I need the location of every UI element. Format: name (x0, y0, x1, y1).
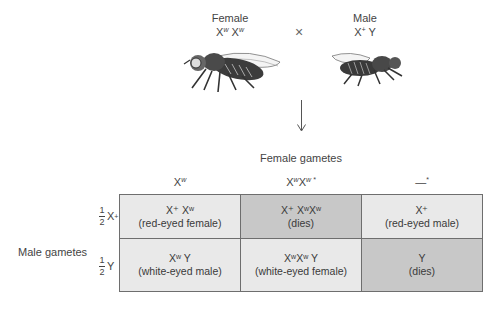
cell-white-eyed-male: Xʷ Y(white-eyed male) (120, 239, 241, 292)
fraction-half: 12 (99, 206, 105, 227)
female-gametes-title: Female gametes (240, 152, 362, 164)
row-label-xplus: 12 X+ (99, 206, 118, 226)
male-genotype: X+ Y (345, 24, 385, 38)
column-header-null: —* (361, 176, 483, 188)
cell-red-eyed-male: X⁺(red-eyed male) (362, 195, 483, 239)
fruit-fly-male-icon (330, 48, 405, 88)
cross-symbol: × (295, 24, 303, 40)
cell-white-eyed-female: XʷXʷ Y(white-eyed female) (241, 239, 362, 292)
female-genotype: Xw Xw (200, 24, 260, 38)
female-label: Female (200, 12, 260, 24)
fraction-half: 12 (99, 256, 105, 277)
row-label-y: 12 Y (99, 256, 114, 276)
male-gametes-title: Male gametes (18, 246, 87, 258)
cell-dies-y: Y(dies) (362, 239, 483, 292)
male-label: Male (345, 12, 385, 24)
column-header-xw: Xw (119, 176, 241, 188)
cell-red-eyed-female: X⁺ Xʷ(red-eyed female) (120, 195, 241, 239)
fruit-fly-female-icon (180, 42, 285, 94)
table-row: X⁺ Xʷ(red-eyed female) X⁺ XʷXʷ(dies) X⁺(… (120, 195, 483, 239)
cell-dies-triple-x: X⁺ XʷXʷ(dies) (241, 195, 362, 239)
arrow-down-icon (297, 124, 306, 132)
table-row: Xʷ Y(white-eyed male) XʷXʷ Y(white-eyed … (120, 239, 483, 292)
punnett-square: X⁺ Xʷ(red-eyed female) X⁺ XʷXʷ(dies) X⁺(… (119, 194, 483, 292)
column-header-xwxw: XwXw * (241, 176, 361, 188)
female-parent-label: Female Xw Xw (200, 12, 260, 38)
male-parent-label: Male X+ Y (345, 12, 385, 38)
